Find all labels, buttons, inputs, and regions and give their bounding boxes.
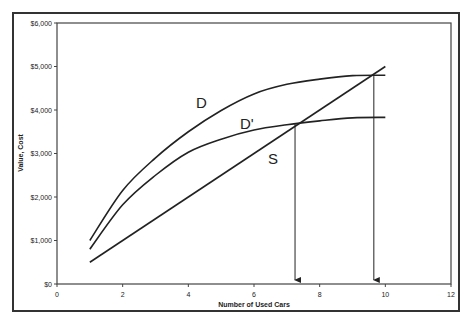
x-tick-label: 10 — [381, 291, 389, 298]
series-d-prime-line — [90, 117, 386, 249]
y-tick-label: $1,000 — [31, 237, 53, 244]
y-tick-label: $5,000 — [31, 63, 53, 70]
x-tick-label: 0 — [55, 291, 59, 298]
x-tick-label: 4 — [186, 291, 190, 298]
y-tick-label: $4,000 — [31, 107, 53, 114]
series-s-line — [90, 67, 386, 263]
x-axis-title: Number of Used Cars — [218, 301, 290, 308]
x-tick-label: 6 — [252, 291, 256, 298]
y-tick-label: $3,000 — [31, 150, 53, 157]
line-chart: $0$1,000$2,000$3,000$4,000$5,000$6,000 0… — [0, 0, 471, 325]
arrow-layer — [295, 76, 374, 280]
x-tick-label: 12 — [447, 291, 455, 298]
series-layer — [90, 67, 386, 263]
y-tick-label: $6,000 — [31, 20, 53, 27]
y-tick-label: $0 — [44, 281, 52, 288]
x-tick-label: 8 — [318, 291, 322, 298]
y-axis-title: Value, Cost — [17, 133, 25, 171]
x-axis: 024681012 — [55, 284, 455, 298]
curve-label-d: D — [196, 94, 207, 111]
y-tick-label: $2,000 — [31, 194, 53, 201]
y-axis: $0$1,000$2,000$3,000$4,000$5,000$6,000 — [31, 20, 57, 288]
curve-label-d-prime: D' — [240, 115, 254, 132]
series-d-line — [90, 75, 386, 240]
x-tick-label: 2 — [121, 291, 125, 298]
curve-label-s: S — [268, 150, 278, 167]
